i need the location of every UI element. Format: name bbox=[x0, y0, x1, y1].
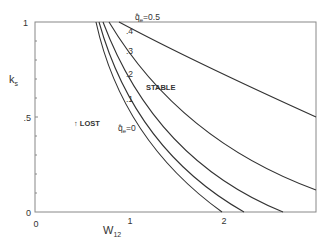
x-tick-label: 2 bbox=[221, 216, 226, 226]
y-tick-label: 0 bbox=[26, 208, 31, 218]
curve-label-qe-0.2: .2 bbox=[126, 69, 133, 79]
region-label-lost: ↑ LOST bbox=[74, 119, 100, 128]
y-tick-label: 1 bbox=[23, 18, 28, 28]
curve-label-qe-0.3: .3 bbox=[126, 46, 133, 56]
x-axis-title: W12 bbox=[103, 224, 121, 238]
y-tick-label: .5 bbox=[23, 113, 31, 123]
curve-qe-0.3 bbox=[109, 22, 316, 190]
chart: 1 .5 0 0 1 2 ks W12 q̂e=0.5 .4 .3 .2 .1 … bbox=[0, 0, 329, 243]
curve-qe-0.1 bbox=[99, 22, 244, 212]
curve-qe-0.4 bbox=[119, 22, 316, 117]
region-label-stable: STABLE bbox=[146, 83, 175, 92]
curve-label-qe-0.1: .1 bbox=[126, 94, 133, 104]
curve-label-qe-0: q̂e=0 bbox=[118, 123, 136, 134]
curve-label-qe-0.4: .4 bbox=[126, 26, 133, 36]
x-tick-label: 0 bbox=[33, 219, 38, 229]
x-tick-label: 1 bbox=[127, 216, 132, 226]
curve-label-qe-0.5: q̂e=0.5 bbox=[135, 12, 160, 23]
y-axis-title: ks bbox=[9, 73, 19, 87]
